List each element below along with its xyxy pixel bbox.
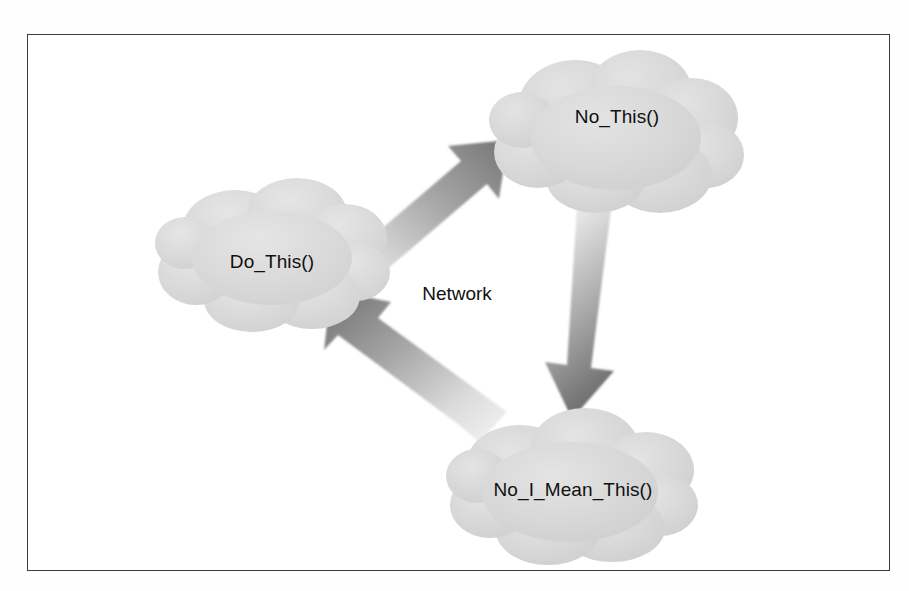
network-label: Network: [422, 283, 492, 305]
cloud-label-no-this: No_This(): [575, 106, 659, 128]
edge-no-this-to-no-i-mean-this: [545, 190, 614, 419]
cloud-no-this[interactable]: [489, 50, 744, 213]
cloud-label-do-this: Do_This(): [230, 251, 314, 273]
figure-canvas: No_This() Do_This() No_I_Mean_This() Net…: [0, 0, 909, 591]
cloud-label-no-i-mean-this: No_I_Mean_This(): [494, 479, 653, 501]
